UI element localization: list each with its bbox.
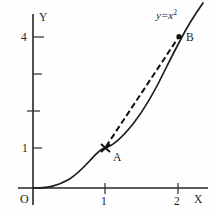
x-tick-label-1: 1 [101, 195, 107, 207]
y-axis-label: Y [39, 11, 48, 23]
origin-label: O [20, 192, 29, 206]
point-a-marker [101, 144, 110, 152]
x-tick-label-2: 2 [174, 195, 180, 207]
point-b-label: B [186, 31, 194, 43]
parabola-secant-figure: Y X O 4 1 1 2 A B y=x2 [0, 0, 217, 213]
y-tick-label-4: 4 [21, 31, 27, 43]
x-axis-label: X [194, 193, 203, 205]
secant-line-ab [106, 37, 179, 147]
curve-equation-base: y=x [155, 9, 173, 21]
curve-equation-label: y=x2 [155, 8, 177, 21]
y-tick-label-1: 1 [22, 142, 28, 154]
point-b-marker [176, 34, 181, 39]
curve-equation-exponent: 2 [173, 8, 177, 17]
plot-canvas: Y X O 4 1 1 2 A B y=x2 [0, 0, 217, 213]
point-a-label: A [113, 151, 122, 163]
